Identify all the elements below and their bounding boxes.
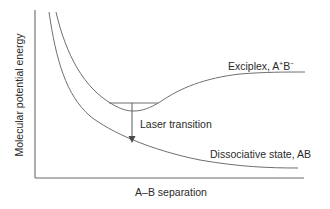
dissociative-curve bbox=[49, 12, 298, 168]
potential-energy-diagram bbox=[0, 0, 330, 209]
exciplex-label-minus: − bbox=[290, 60, 294, 67]
exciplex-label-text: Exciplex, A bbox=[228, 60, 279, 72]
y-axis-label: Molecular potential energy bbox=[13, 33, 25, 156]
arrowhead-icon bbox=[129, 136, 136, 143]
laser-transition-label: Laser transition bbox=[140, 118, 212, 130]
exciplex-label: Exciplex, A+B− bbox=[228, 60, 294, 72]
x-axis-label: A–B separation bbox=[135, 186, 207, 198]
dissociative-state-label: Dissociative state, AB bbox=[210, 148, 311, 160]
